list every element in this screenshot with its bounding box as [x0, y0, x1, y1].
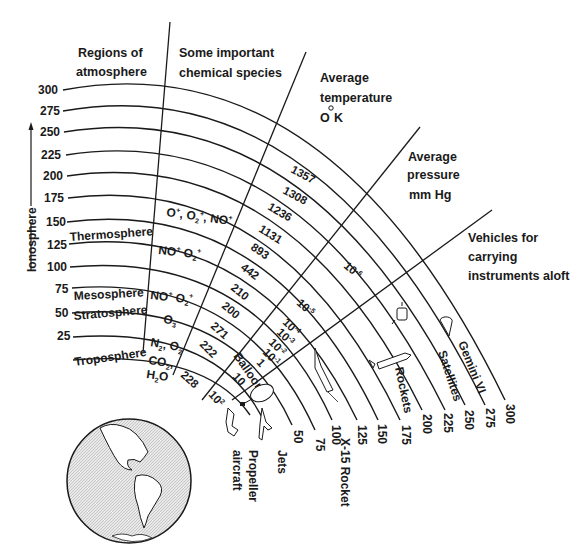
- svg-text:275: 275: [40, 104, 60, 118]
- svg-text:Average: Average: [320, 71, 369, 85]
- svg-text:Stratosphere: Stratosphere: [73, 303, 148, 323]
- svg-text:Regions of: Regions of: [78, 46, 143, 60]
- header-pressure: Average pressure mm Hg: [407, 150, 460, 202]
- svg-text:250: 250: [40, 125, 60, 139]
- svg-text:225: 225: [41, 148, 61, 162]
- svg-text:Propeller: Propeller: [246, 450, 260, 502]
- header-regions: Regions of atmosphere: [76, 46, 147, 79]
- svg-text:125: 125: [355, 425, 369, 445]
- svg-text:250: 250: [462, 410, 476, 430]
- svg-text:aircraft: aircraft: [230, 450, 244, 491]
- svg-text:200: 200: [43, 169, 63, 183]
- header-temperature: Average temperature O K: [320, 71, 392, 125]
- svg-text:chemical species: chemical species: [179, 66, 282, 80]
- propeller-aircraft-icon: [226, 408, 238, 436]
- svg-text:1308: 1308: [281, 184, 310, 207]
- svg-text:271: 271: [209, 320, 232, 342]
- svg-text:200: 200: [220, 299, 242, 321]
- svg-text:Thermosphere: Thermosphere: [69, 224, 153, 244]
- svg-text:K: K: [334, 111, 343, 125]
- svg-text:Some important: Some important: [179, 46, 275, 60]
- svg-text:1: 1: [255, 356, 269, 369]
- atmosphere-diagram: Regions of atmosphere Some important che…: [0, 0, 584, 560]
- svg-text:125: 125: [47, 238, 67, 252]
- svg-text:50: 50: [55, 306, 69, 320]
- svg-text:300: 300: [503, 404, 517, 424]
- svg-text:50: 50: [291, 430, 305, 444]
- svg-text:temperature: temperature: [320, 91, 392, 105]
- svg-text:228: 228: [179, 369, 202, 391]
- jet-icon: [259, 408, 272, 440]
- svg-text:Vehicles for: Vehicles for: [468, 231, 538, 245]
- header-vehicles: Vehicles for carrying instruments aloft: [468, 231, 570, 283]
- svg-text:NO+ O2+: NO+ O2+: [158, 243, 202, 262]
- svg-text:O3: O3: [162, 312, 177, 329]
- svg-text:893: 893: [249, 241, 272, 262]
- svg-text:175: 175: [399, 425, 413, 445]
- svg-text:mm Hg: mm Hg: [409, 188, 451, 202]
- svg-text:instruments aloft: instruments aloft: [468, 269, 570, 283]
- earth-globe-icon: [67, 419, 191, 543]
- svg-text:carrying: carrying: [468, 250, 517, 264]
- svg-text:pressure: pressure: [407, 168, 460, 182]
- svg-text:Jets: Jets: [275, 450, 289, 474]
- svg-text:atmosphere: atmosphere: [76, 65, 147, 79]
- svg-text:300: 300: [38, 83, 58, 97]
- svg-text:175: 175: [44, 191, 64, 205]
- svg-text:O+, O2+, NO+: O+, O2+, NO+: [165, 205, 233, 229]
- svg-text:225: 225: [441, 413, 455, 433]
- svg-text:H2O: H2O: [145, 367, 169, 385]
- svg-text:150: 150: [375, 424, 389, 444]
- ionosphere-arrow: Ionosphere: [25, 122, 39, 272]
- pressure-values: 10-6 10-5 10-4 10-3 10-2 10-1 1 10 102: [207, 259, 365, 408]
- altitude-arcs: [63, 84, 505, 430]
- regions-of-atmosphere: Thermosphere Mesosphere Stratosphere Tro…: [69, 224, 153, 369]
- svg-text:200: 200: [420, 414, 434, 434]
- svg-text:25: 25: [57, 329, 71, 343]
- chemical-species: O+, O2+, NO+ NO+ O2+ NO+ O2+ O3 N2, O2 C…: [145, 205, 233, 385]
- svg-text:75: 75: [55, 282, 69, 296]
- svg-text:442: 442: [239, 261, 262, 282]
- svg-text:X-15 Rocket: X-15 Rocket: [338, 438, 352, 507]
- svg-text:Mesosphere: Mesosphere: [73, 285, 144, 303]
- svg-text:Troposphere: Troposphere: [73, 345, 147, 369]
- svg-text:Ionosphere: Ionosphere: [25, 207, 39, 272]
- satellite-icon: [392, 302, 407, 324]
- svg-text:Average: Average: [408, 150, 457, 164]
- svg-text:O: O: [320, 111, 330, 125]
- svg-text:100: 100: [47, 260, 67, 274]
- altitude-axis: 300 275 250 225 200 175 150 125 100 75 5…: [38, 83, 71, 343]
- svg-text:75: 75: [313, 438, 327, 452]
- svg-text:N2, O2: N2, O2: [149, 335, 184, 355]
- header-chemical-species: Some important chemical species: [179, 46, 282, 80]
- svg-text:275: 275: [483, 408, 497, 428]
- svg-text:150: 150: [46, 215, 66, 229]
- svg-text:NO+ O2+: NO+ O2+: [150, 288, 194, 307]
